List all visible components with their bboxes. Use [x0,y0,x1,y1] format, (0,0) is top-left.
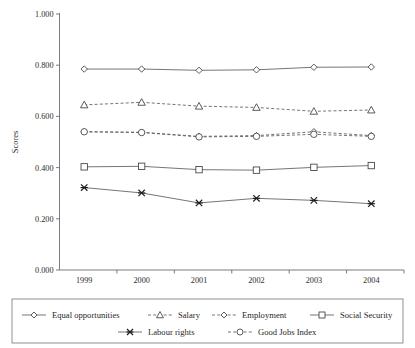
data-point-diamond-marker [31,312,37,318]
x-axis: 199920002001200220032004 [60,270,405,285]
legend-item-labour-rights[interactable]: Labour rights [118,327,195,337]
data-point-square-marker [368,162,374,168]
data-point-circle-marker [237,329,243,335]
data-point-x-marker [310,197,317,203]
data-point-square-marker [196,166,202,172]
x-tick-label: 2002 [248,276,264,285]
data-point-x-marker [195,200,202,206]
legend-item-equal-opportunities[interactable]: Equal opportunities [22,310,120,320]
data-point-triangle-marker [368,106,375,113]
data-point-triangle-marker [157,312,164,318]
legend-label: Salary [178,310,201,320]
data-point-square-marker [81,164,87,170]
data-point-x-marker [138,190,145,196]
x-tick-label: 2004 [363,276,379,285]
y-tick-label: 0.200 [35,215,53,224]
data-point-triangle-marker [253,104,260,111]
series-good-jobs-index [81,129,374,141]
series-layer [81,64,375,207]
y-tick-label: 0.800 [35,61,53,70]
x-tick-label: 1999 [76,276,92,285]
legend-label: Employment [242,310,287,320]
x-tick-label: 2003 [306,276,322,285]
legend-item-social-security[interactable]: Social Security [310,310,393,320]
data-point-diamond-marker [138,66,144,72]
y-tick-label: 0.600 [35,112,53,121]
data-point-x-marker [127,329,134,335]
x-tick-label: 2001 [191,276,207,285]
data-point-square-marker [253,167,259,173]
data-point-circle-marker [81,129,87,135]
data-point-diamond-marker [368,64,374,70]
data-point-x-marker [81,184,88,190]
data-point-triangle-marker [195,102,202,109]
data-point-x-marker [253,195,260,201]
legend-item-salary[interactable]: Salary [148,310,201,320]
legend-label: Social Security [340,310,393,320]
data-point-square-marker [311,164,317,170]
data-point-triangle-marker [310,108,317,115]
data-point-diamond-marker [311,64,317,70]
data-point-circle-marker [253,133,259,139]
data-point-square-marker [319,312,325,318]
y-tick-label: 0.400 [35,164,53,173]
series-social-security [81,162,374,173]
data-point-circle-marker [196,134,202,140]
y-tick-label: 1.000 [35,10,53,19]
legend-label: Good Jobs Index [258,327,317,337]
data-point-circle-marker [311,131,317,137]
chart-legend: Equal opportunitiesSalaryEmploymentSocia… [12,299,403,343]
data-point-circle-marker [368,133,374,139]
chart-canvas: 0.0000.2000.4000.6000.8001.000 199920002… [0,0,415,348]
y-axis-title: Scores [11,131,20,153]
data-point-diamond-marker [253,67,259,73]
legend-item-good-jobs-index[interactable]: Good Jobs Index [228,327,317,337]
series-salary [81,99,375,115]
legend-item-employment[interactable]: Employment [212,310,287,320]
series-employment [81,129,374,140]
y-axis: 0.0000.2000.4000.6000.8001.000 [35,10,59,275]
series-equal-opportunities [81,64,374,74]
series-labour-rights [81,184,375,207]
data-point-diamond-marker [81,66,87,72]
data-point-x-marker [368,200,375,206]
x-tick-label: 2000 [133,276,149,285]
legend-label: Equal opportunities [52,310,120,320]
data-point-diamond-marker [196,67,202,73]
y-tick-label: 0.000 [35,266,53,275]
data-point-circle-marker [138,129,144,135]
line-chart: 0.0000.2000.4000.6000.8001.000 199920002… [0,0,415,348]
legend-label: Labour rights [148,327,195,337]
data-point-diamond-marker [221,312,227,318]
data-point-triangle-marker [138,99,145,106]
data-point-square-marker [138,163,144,169]
